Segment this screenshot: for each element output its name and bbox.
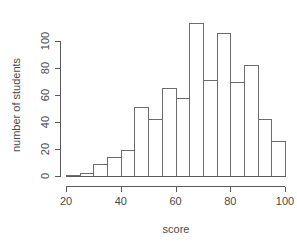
x-tick-label: 80 (224, 195, 236, 207)
histogram-bar (94, 164, 108, 176)
histogram-bar (176, 98, 190, 176)
histogram-bar (217, 33, 231, 176)
chart-canvas: 020406080100 20406080100 score number of… (0, 0, 297, 244)
histogram-bar (108, 158, 122, 177)
histogram-bar (149, 120, 163, 177)
histogram-bar (258, 120, 272, 177)
histogram-bar (244, 66, 258, 177)
histogram-bar (231, 82, 245, 177)
y-tick-label: 80 (39, 62, 51, 74)
histogram-bars (67, 24, 286, 177)
histogram-plot: 020406080100 20406080100 score number of… (0, 0, 297, 244)
x-tick-label: 20 (60, 195, 72, 207)
x-tick-label: 100 (276, 195, 294, 207)
histogram-bar (162, 89, 176, 177)
histogram-bar (121, 151, 135, 177)
x-tick-label: 60 (169, 195, 181, 207)
y-tick-label: 0 (39, 173, 51, 179)
y-tick-label: 20 (39, 143, 51, 155)
y-tick-label: 100 (39, 32, 51, 50)
histogram-bar (272, 141, 286, 176)
y-axis-ticks: 020406080100 (39, 32, 61, 179)
y-tick-label: 40 (39, 116, 51, 128)
y-tick-label: 60 (39, 89, 51, 101)
histogram-bar (203, 81, 217, 177)
histogram-bar (135, 108, 149, 177)
y-axis-title: number of students (10, 57, 22, 152)
x-tick-label: 40 (115, 195, 127, 207)
x-axis-title: score (163, 223, 190, 235)
histogram-bar (190, 24, 204, 177)
x-axis-ticks: 20406080100 (60, 187, 294, 208)
